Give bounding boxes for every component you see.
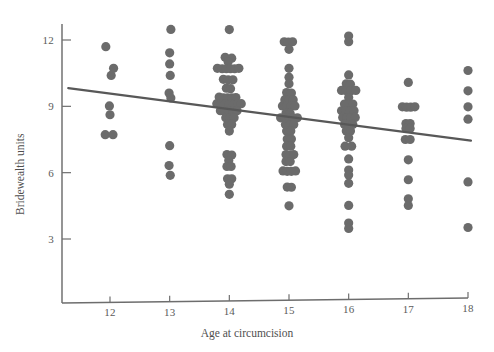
data-point — [286, 142, 295, 151]
data-point — [410, 102, 419, 111]
x-tick-label: 15 — [283, 304, 294, 316]
x-tick-label: 17 — [403, 303, 414, 315]
data-point — [228, 75, 237, 84]
data-point — [344, 170, 353, 179]
chart-figure: 36912 12131415161718 Bridewealth units A… — [0, 0, 494, 352]
data-point — [344, 201, 353, 210]
data-points-layer — [101, 25, 473, 233]
data-point — [227, 162, 236, 171]
data-point — [463, 177, 472, 186]
data-point — [463, 102, 472, 111]
data-point — [225, 190, 234, 199]
data-point — [287, 183, 296, 192]
data-point — [404, 78, 413, 87]
data-point — [284, 201, 293, 210]
data-point — [344, 133, 353, 142]
data-point — [404, 201, 413, 210]
x-tick-label: 12 — [104, 306, 115, 318]
data-point — [344, 154, 353, 163]
y-tick-label: 6 — [24, 167, 54, 179]
data-point — [406, 135, 415, 144]
data-point — [344, 224, 353, 233]
data-point — [404, 175, 413, 184]
data-point — [284, 45, 293, 54]
data-point — [105, 110, 114, 119]
data-point — [166, 171, 175, 180]
data-point — [463, 223, 472, 232]
y-tick-label: 3 — [24, 233, 54, 245]
data-point — [291, 166, 300, 175]
data-point — [165, 141, 174, 150]
data-point — [165, 59, 174, 68]
x-tick-label: 18 — [462, 302, 473, 314]
data-point — [344, 70, 353, 79]
data-point — [225, 127, 234, 136]
y-tick-label: 9 — [24, 100, 54, 112]
x-tick-label: 14 — [224, 305, 235, 317]
data-point — [226, 84, 235, 93]
data-point — [404, 155, 413, 164]
data-point — [108, 130, 117, 139]
regression-line-layer — [68, 88, 471, 140]
x-tick-label: 16 — [343, 303, 354, 315]
data-point — [284, 79, 293, 88]
data-point — [107, 71, 116, 80]
scatter-plot-canvas — [0, 0, 494, 352]
data-point — [347, 142, 356, 151]
data-point — [166, 25, 175, 34]
data-point — [463, 66, 472, 75]
data-point — [105, 101, 114, 110]
data-point — [101, 42, 110, 51]
y-tick-label: 12 — [24, 34, 54, 46]
x-axis-title: Age at circumcision — [0, 327, 494, 339]
data-point — [225, 180, 234, 189]
data-point — [284, 64, 293, 73]
regression-line — [68, 88, 471, 140]
x-tick-label: 13 — [164, 306, 175, 318]
data-point — [286, 127, 295, 136]
data-point — [225, 25, 234, 34]
data-point — [344, 179, 353, 188]
y-axis-title: Bridewealth units — [14, 134, 26, 215]
data-point — [164, 161, 173, 170]
data-point — [463, 115, 472, 124]
data-point — [463, 86, 472, 95]
data-point — [344, 37, 353, 46]
data-point — [351, 86, 360, 95]
data-point — [234, 64, 243, 73]
y-tick-marks — [62, 40, 71, 239]
data-point — [165, 48, 174, 57]
data-point — [286, 157, 295, 166]
data-point — [166, 71, 175, 80]
